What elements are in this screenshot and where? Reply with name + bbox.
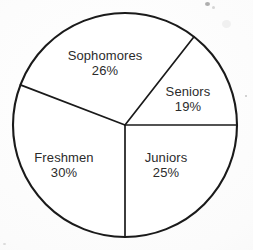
- slice-label-freshmen-category: Freshmen: [12, 150, 116, 165]
- pie-chart-graphic: [0, 0, 253, 250]
- slice-label-freshmen: Freshmen 30%: [12, 150, 116, 180]
- pie-chart: Sophomores 26% Seniors 19% Juniors 25% F…: [0, 0, 253, 250]
- scan-speck: [212, 6, 215, 9]
- slice-label-juniors-category: Juniors: [118, 150, 214, 165]
- slice-label-freshmen-value: 30%: [12, 165, 116, 180]
- slice-label-sophomores-value: 26%: [0, 63, 210, 78]
- slice-label-sophomores-category: Sophomores: [0, 48, 210, 63]
- slice-label-juniors: Juniors 25%: [118, 150, 214, 180]
- slice-label-sophomores: Sophomores 26%: [0, 48, 210, 78]
- slice-label-seniors-category: Seniors: [140, 84, 236, 99]
- scan-speck: [245, 95, 247, 97]
- slice-label-juniors-value: 25%: [118, 165, 214, 180]
- slice-label-seniors: Seniors 19%: [140, 84, 236, 114]
- scan-speck: [3, 243, 6, 245]
- pie-slice-juniors[interactable]: [125, 125, 237, 237]
- slice-label-seniors-value: 19%: [140, 99, 236, 114]
- scan-speck: [205, 2, 210, 6]
- scan-speck: [222, 20, 231, 28]
